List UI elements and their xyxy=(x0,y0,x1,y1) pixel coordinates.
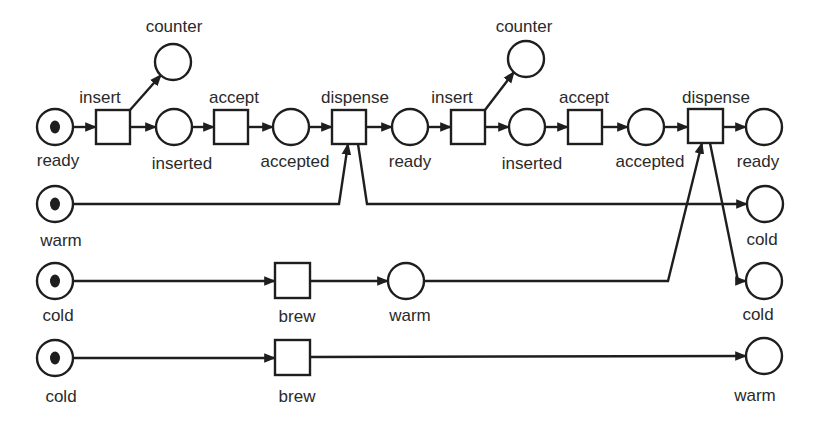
place-circle[interactable] xyxy=(509,109,545,145)
place-cold[interactable] xyxy=(747,186,783,222)
place-inserted[interactable] xyxy=(156,109,192,145)
place-circle[interactable] xyxy=(155,44,191,80)
place-label-counter: counter xyxy=(146,18,203,35)
place-label-cold: cold xyxy=(746,231,777,248)
transition-label-brew: brew xyxy=(279,308,316,325)
place-ready[interactable] xyxy=(392,109,428,145)
place-circle[interactable] xyxy=(746,263,782,299)
place-label-inserted: inserted xyxy=(502,155,562,172)
transition-label-accept: accept xyxy=(559,89,609,106)
arc-t_insert1-to-p_counter1 xyxy=(130,75,161,110)
petri-net-diagram xyxy=(0,0,817,431)
place-label-inserted: inserted xyxy=(152,155,212,172)
arc-t_insert2-to-p_counter2 xyxy=(485,72,514,110)
place-label-ready: ready xyxy=(37,152,80,169)
transition-label-dispense: dispense xyxy=(682,89,750,106)
place-circle[interactable] xyxy=(747,186,783,222)
place-label-warm: warm xyxy=(734,387,776,404)
place-label-ready: ready xyxy=(737,153,780,170)
place-accepted[interactable] xyxy=(628,109,664,145)
transition-dispense[interactable] xyxy=(688,109,723,143)
place-label-warm: warm xyxy=(389,307,431,324)
transitions-layer xyxy=(96,109,723,375)
place-circle[interactable] xyxy=(273,109,309,145)
place-circle[interactable] xyxy=(746,338,782,374)
place-circle[interactable] xyxy=(392,109,428,145)
transition-dispense[interactable] xyxy=(332,110,366,144)
place-label-cold: cold xyxy=(742,306,773,323)
place-label-warm: warm xyxy=(40,232,82,249)
transition-label-brew: brew xyxy=(279,388,316,405)
place-label-cold: cold xyxy=(45,388,76,405)
place-warm[interactable] xyxy=(388,263,424,299)
place-counter[interactable] xyxy=(155,44,191,80)
transition-brew[interactable] xyxy=(275,340,310,375)
transition-label-insert: insert xyxy=(79,89,121,106)
place-circle[interactable] xyxy=(508,41,544,77)
transition-accept[interactable] xyxy=(214,110,248,144)
place-label-accepted: accepted xyxy=(616,153,685,170)
token-dot-icon xyxy=(50,198,60,211)
transition-insert[interactable] xyxy=(96,110,130,144)
place-counter[interactable] xyxy=(508,41,544,77)
places-layer xyxy=(37,41,783,376)
transition-label-insert: insert xyxy=(431,89,473,106)
place-label-accepted: accepted xyxy=(261,153,330,170)
place-circle[interactable] xyxy=(388,263,424,299)
place-warm[interactable] xyxy=(37,186,73,222)
place-circle[interactable] xyxy=(628,109,664,145)
place-label-counter: counter xyxy=(496,18,553,35)
place-warm[interactable] xyxy=(746,338,782,374)
token-dot-icon xyxy=(50,352,60,365)
place-circle[interactable] xyxy=(156,109,192,145)
token-dot-icon xyxy=(50,121,60,134)
place-circle[interactable] xyxy=(746,109,782,145)
place-accepted[interactable] xyxy=(273,109,309,145)
place-label-ready: ready xyxy=(389,153,432,170)
transition-label-dispense: dispense xyxy=(321,89,389,106)
place-cold[interactable] xyxy=(37,263,73,299)
place-ready[interactable] xyxy=(746,109,782,145)
transition-brew[interactable] xyxy=(275,263,310,298)
place-cold[interactable] xyxy=(746,263,782,299)
transition-accept[interactable] xyxy=(568,110,602,144)
place-inserted[interactable] xyxy=(509,109,545,145)
place-label-cold: cold xyxy=(42,307,73,324)
transition-insert[interactable] xyxy=(451,110,485,144)
place-ready[interactable] xyxy=(37,109,73,145)
place-cold[interactable] xyxy=(37,340,73,376)
arc-t_brew2-to-p_warm_out xyxy=(310,356,746,357)
transition-label-accept: accept xyxy=(209,89,259,106)
token-dot-icon xyxy=(50,275,60,288)
